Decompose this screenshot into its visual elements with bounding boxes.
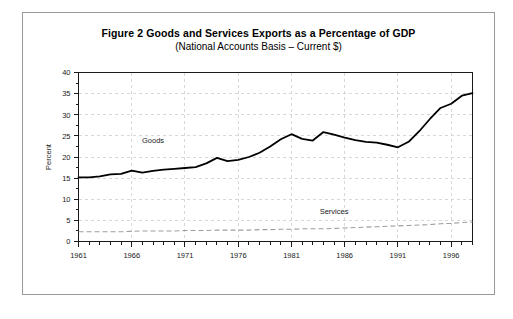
grid-layer bbox=[79, 73, 473, 242]
y-tick-label: 30 bbox=[62, 111, 70, 120]
series-line-services bbox=[79, 222, 473, 232]
y-tick-label: 20 bbox=[62, 153, 70, 162]
y-tick-label: 15 bbox=[62, 174, 70, 183]
y-tick-label: 35 bbox=[62, 89, 70, 98]
series-label-goods: Goods bbox=[142, 136, 164, 145]
x-tick-label: 1981 bbox=[283, 251, 300, 260]
axis-labels-layer: 0510152025303540196119661971197619811986… bbox=[44, 68, 460, 259]
series-line-goods bbox=[79, 93, 473, 177]
y-axis-title: Percent bbox=[44, 143, 53, 170]
x-tick-label: 1971 bbox=[177, 251, 194, 260]
x-tick-label: 1996 bbox=[443, 251, 460, 260]
y-tick-label: 25 bbox=[62, 132, 70, 141]
x-tick-label: 1986 bbox=[336, 251, 353, 260]
x-tick-label: 1961 bbox=[70, 251, 87, 260]
y-tick-label: 5 bbox=[66, 216, 70, 225]
x-tick-label: 1976 bbox=[230, 251, 247, 260]
x-tick-label: 1991 bbox=[390, 251, 407, 260]
series-label-services: Services bbox=[320, 207, 349, 216]
y-tick-label: 0 bbox=[66, 237, 70, 246]
figure-root: Figure 2 Goods and Services Exports as a… bbox=[0, 0, 513, 319]
series-layer bbox=[79, 93, 473, 232]
chart-plot: 0510152025303540196119661971197619811986… bbox=[0, 0, 513, 319]
x-tick-label: 1966 bbox=[123, 251, 140, 260]
y-tick-label: 40 bbox=[62, 68, 70, 77]
y-tick-label: 10 bbox=[62, 195, 70, 204]
axis-frame bbox=[79, 73, 473, 242]
